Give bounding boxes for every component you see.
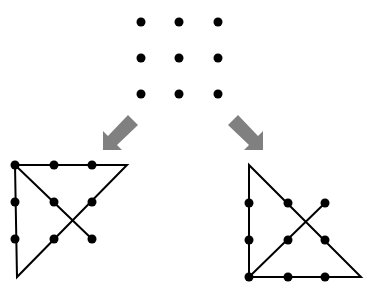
solution-left [11,161,128,278]
dot [137,18,146,27]
puzzle-grid [137,18,223,99]
dot [284,236,293,245]
dot [137,54,146,63]
dot [245,199,254,208]
dot [11,161,20,170]
dot [214,90,223,99]
dot [175,90,184,99]
arrow-down-left-icon [103,115,138,150]
dot [50,161,59,170]
dot [284,273,293,282]
solution-path [249,165,361,277]
arrows [103,115,263,150]
dot [321,273,330,282]
dot [88,198,97,207]
dot [11,198,20,207]
dot [11,235,20,244]
dot [88,161,97,170]
solution-path [15,165,127,277]
dot [245,273,254,282]
dot [245,236,254,245]
dot [321,199,330,208]
dot [137,90,146,99]
dot [175,18,184,27]
dot [88,235,97,244]
dot [175,54,184,63]
dot [214,18,223,27]
nine-dots-diagram [0,0,376,296]
dot [50,198,59,207]
solution-right [245,165,362,282]
dot [321,236,330,245]
dot [284,199,293,208]
dot [214,54,223,63]
arrow-down-right-icon [228,115,263,150]
dot [50,235,59,244]
